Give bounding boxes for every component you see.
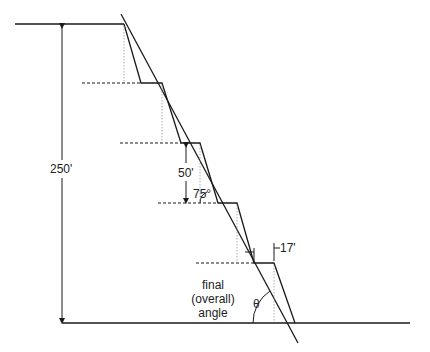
bench-height-label: 50' [178,166,194,180]
slope-diagram: 250' 50' 75° 17' final (overall) angle θ [0,0,430,352]
face-angle-label: 75° [193,187,211,201]
face-angle-annotation: 75° [193,187,211,203]
overall-angle-annotation: final (overall) angle θ [191,278,270,323]
overall-angle-label-2: (overall) [191,292,234,306]
bench-width-label: 17' [280,241,296,255]
overall-angle-label-3: angle [198,306,228,320]
total-height-label: 250' [50,162,72,176]
theta-label: θ [253,297,260,311]
total-height-dimension: 250' [50,26,72,321]
bench-height-dimension: 50' [178,145,194,201]
overall-angle-label-1: final [202,278,224,292]
